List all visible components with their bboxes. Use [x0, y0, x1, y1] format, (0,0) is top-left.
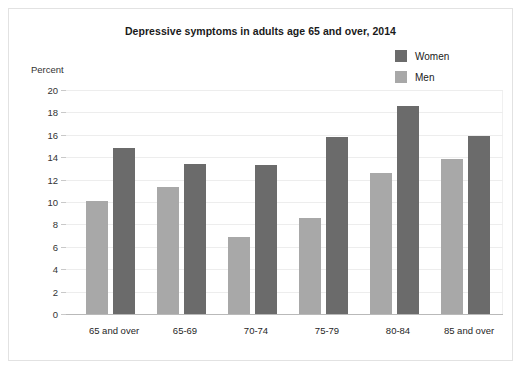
bar-women[interactable]: [113, 148, 135, 314]
x-axis-category-label: 70-74: [220, 325, 292, 336]
y-axis-tick-label: 18: [47, 107, 58, 118]
y-axis-tick: [61, 112, 66, 113]
y-axis-tick: [61, 135, 66, 136]
y-axis-label: Percent: [31, 64, 64, 75]
legend-swatch-men: [395, 71, 407, 83]
y-axis-tick-label: 4: [53, 264, 58, 275]
chart-screenshot: Depressive symptoms in adults age 65 and…: [0, 0, 521, 369]
legend-label-women: Women: [415, 51, 449, 62]
y-axis-tick-label: 16: [47, 129, 58, 140]
gridline: [66, 314, 503, 315]
y-axis-tick: [61, 224, 66, 225]
y-axis-tick-label: 8: [53, 219, 58, 230]
bar-women[interactable]: [397, 106, 419, 314]
bar-group: 65 and over: [78, 90, 150, 314]
y-axis-tick: [61, 314, 66, 315]
y-axis-tick: [61, 90, 66, 91]
bar-women[interactable]: [255, 165, 277, 314]
legend-item-women[interactable]: Women: [395, 47, 505, 65]
chart-title: Depressive symptoms in adults age 65 and…: [0, 25, 521, 37]
x-axis-category-label: 65-69: [149, 325, 221, 336]
bar-men[interactable]: [441, 159, 463, 314]
y-axis-tick-label: 6: [53, 241, 58, 252]
bar-men[interactable]: [370, 173, 392, 314]
bar-men[interactable]: [299, 218, 321, 314]
legend-swatch-women: [395, 50, 407, 62]
bar-women[interactable]: [184, 164, 206, 314]
plot-area: 0246810121416182065 and over65-6970-7475…: [66, 90, 503, 314]
y-axis-tick: [61, 157, 66, 158]
bar-men[interactable]: [157, 187, 179, 314]
x-axis-category-label: 85 and over: [433, 325, 505, 336]
y-axis-tick: [61, 292, 66, 293]
y-axis-tick: [61, 269, 66, 270]
y-axis-tick: [61, 180, 66, 181]
legend-label-men: Men: [415, 72, 434, 83]
y-axis-tick-label: 20: [47, 85, 58, 96]
y-axis-tick-label: 2: [53, 286, 58, 297]
bar-group: 85 and over: [433, 90, 505, 314]
y-axis-tick: [61, 202, 66, 203]
bar-group: 70-74: [220, 90, 292, 314]
bar-group: 75-79: [291, 90, 363, 314]
bar-group: 80-84: [362, 90, 434, 314]
y-axis-tick-label: 12: [47, 174, 58, 185]
bar-group: 65-69: [149, 90, 221, 314]
chart-legend: Women Men: [395, 47, 505, 89]
y-axis-tick-label: 10: [47, 197, 58, 208]
legend-item-men[interactable]: Men: [395, 68, 505, 86]
bar-men[interactable]: [86, 201, 108, 314]
y-axis-tick: [61, 247, 66, 248]
bar-women[interactable]: [326, 137, 348, 314]
x-axis-category-label: 75-79: [291, 325, 363, 336]
x-axis-category-label: 80-84: [362, 325, 434, 336]
y-axis-tick-label: 0: [53, 309, 58, 320]
bar-men[interactable]: [228, 237, 250, 314]
y-axis-tick-label: 14: [47, 152, 58, 163]
x-axis-category-label: 65 and over: [78, 325, 150, 336]
bar-women[interactable]: [468, 136, 490, 314]
